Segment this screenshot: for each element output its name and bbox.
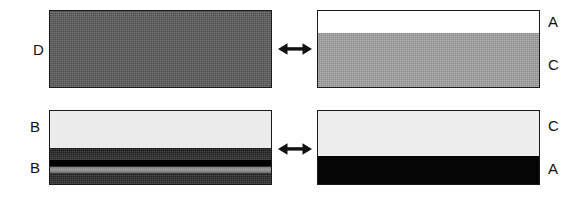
layer-b-black-stripe	[50, 160, 271, 166]
panel-label-c-bottom: C	[548, 118, 559, 133]
panel-top-right	[317, 10, 540, 88]
panel-label-a-bottom: A	[548, 161, 558, 176]
panel-bottom-left	[49, 110, 272, 185]
layer-b-upper	[50, 111, 271, 148]
panel-label-d: D	[33, 42, 44, 57]
layer-b-gray-stripe	[50, 167, 271, 172]
panel-bottom-right	[317, 110, 540, 185]
layer-c	[318, 33, 539, 87]
layer-b-lower	[50, 148, 271, 184]
panel-top-left	[49, 10, 272, 88]
layered-cross-section-figure: D A C B B	[0, 0, 586, 197]
layer-a-bottom	[318, 156, 539, 184]
double-headed-arrow-icon-top	[278, 41, 312, 57]
panel-label-c-top: C	[548, 57, 559, 72]
layer-c-bottom	[318, 111, 539, 156]
panel-label-a-top: A	[548, 14, 558, 29]
layer-d	[50, 11, 271, 87]
double-headed-arrow-icon-bottom	[278, 141, 312, 157]
layer-a	[318, 11, 539, 33]
panel-label-b-lower: B	[30, 160, 40, 175]
panel-label-b-upper: B	[30, 119, 40, 134]
